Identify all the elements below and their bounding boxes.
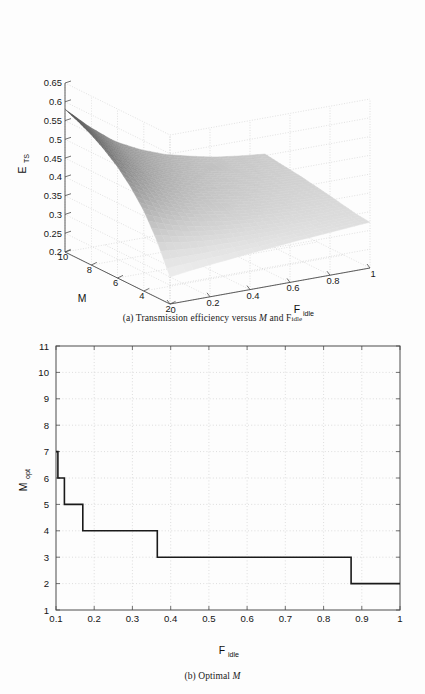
tick-ets [65,137,71,139]
tick-label-x: 0.6 [240,613,253,624]
y-axis-label-mopt: M opt [18,469,32,491]
tick-ets [65,194,71,196]
tick-label-ets: 0.65 [44,77,62,88]
tick-label-y: 11 [39,341,49,352]
stairs-tick-labels: 0.10.20.30.40.50.60.70.80.91123456789101… [38,341,402,625]
tick-label-x: 0.5 [202,613,215,624]
tick-ets [65,81,71,83]
tick-label-x: 0.9 [355,613,368,624]
tick-label-m: 4 [139,290,144,301]
x-axis-label-m: M [78,293,87,304]
caption-b-italic: M [233,671,241,681]
tick-label-y: 10 [38,367,49,378]
figure-page: 0.20.250.30.350.40.450.50.550.60.6510864… [0,0,425,694]
tick-label-ets: 0.3 [49,209,62,220]
stairs-plot-svg: 0.10.20.30.40.50.60.70.80.91123456789101… [0,332,425,672]
tick-label-ets: 0.4 [49,171,62,182]
tick-label-m: 6 [113,277,118,288]
tick-label-y: 7 [44,446,49,457]
tick-ets [65,156,71,158]
tick-ets [65,231,71,233]
stairs-grid-lines [56,346,400,610]
caption-b-prefix: (b) Optimal [184,671,232,681]
grid-backwall-e [170,99,370,135]
y-axis-label-sub-b: opt [24,469,32,479]
tick-ets [65,119,71,121]
tick-label-m: 10 [58,251,68,262]
tick-label-x: 0.7 [279,613,292,624]
tick-ets [65,175,71,177]
tick-label-y: 4 [44,525,50,536]
x-axis-label-sub-b: idle [228,651,239,659]
tick-label-fidle: 0.6 [286,282,299,293]
surface-plot-svg: 0.20.250.30.350.40.450.50.550.60.6510864… [0,30,425,320]
tick-label-y: 2 [44,578,49,589]
tick-ets [65,100,71,102]
tick-label-x: 0.3 [126,613,139,624]
tick-label-ets: 0.55 [44,115,62,126]
tick-label-fidle: 1 [370,268,375,279]
caption-a-prefix: (a) Transmission efficiency versus [123,313,259,323]
caption-panel-a: (a) Transmission efficiency versus M and… [0,313,425,323]
panel-a-surface-plot: 0.20.250.30.350.40.450.50.550.60.6510864… [0,30,425,320]
tick-label-fidle: 0.8 [326,275,339,286]
tick-label-fidle: 0.2 [206,297,219,308]
axis-fidle [170,268,370,304]
tick-label-x: 0.1 [49,613,62,624]
caption-panel-b: (b) Optimal M [0,671,425,681]
tick-label-x: 1 [397,613,402,624]
tick-label-x: 0.2 [88,613,101,624]
tick-label-y: 9 [44,393,49,404]
stairs-data-line [56,452,400,584]
tick-label-y: 5 [44,499,49,510]
tick-label-y: 3 [44,552,49,563]
caption-a-italic: M [259,313,267,323]
x-axis-label-fidle-b: F idle [219,645,239,659]
tick-label-ets: 0.45 [44,153,62,164]
tick-label-y: 6 [44,473,49,484]
tick-label-ets: 0.35 [44,190,62,201]
tick-label-fidle: 0.4 [246,290,259,301]
z-axis-label-sub: TS [23,154,31,163]
caption-a-sub: idle [291,315,302,323]
tick-label-ets: 0.5 [49,134,62,145]
surface-mesh [65,109,370,277]
tick-label-x: 0.4 [164,613,178,624]
tick-ets [65,212,71,214]
z-axis-label-main: E [17,166,28,173]
tick-label-ets: 0.25 [44,228,62,239]
tick-label-m: 8 [87,264,92,275]
x-axis-label-main-b: F [219,645,225,656]
y-axis-label-main-b: M [18,483,29,492]
z-axis-label: E TS [17,154,31,174]
panel-b-stairs-plot: 0.10.20.30.40.50.60.70.80.91123456789101… [0,332,425,672]
caption-a-mid: and F [267,313,291,323]
grid-backwall-e [170,118,370,154]
tick-label-y: 1 [44,605,49,616]
tick-label-x: 0.8 [317,613,330,624]
tick-label-ets: 0.6 [49,96,62,107]
tick-label-y: 8 [44,420,49,431]
